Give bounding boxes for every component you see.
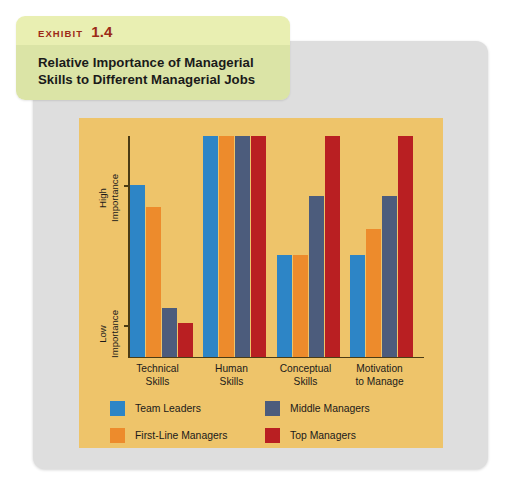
y-axis-tick-low	[124, 325, 128, 327]
bar	[178, 323, 193, 356]
legend-swatch-icon	[110, 401, 125, 416]
legend-label: Top Managers	[290, 430, 356, 441]
exhibit-title-band: Relative Importance of Managerial Skills…	[16, 45, 290, 100]
legend-item: Top Managers	[265, 428, 420, 443]
bar	[293, 255, 308, 356]
y-axis-label-high: High Importance	[97, 174, 120, 222]
x-axis-category-label: ConceptualSkills	[278, 362, 352, 388]
y-axis-label-high-line2: Importance	[109, 174, 120, 222]
bar	[162, 308, 177, 357]
bar-groups	[130, 136, 425, 357]
bar	[277, 255, 292, 356]
exhibit-header-badge: EXHIBIT 1.4 Relative Importance of Manag…	[16, 16, 290, 100]
bar-group	[130, 136, 204, 357]
x-axis-category-label: TechnicalSkills	[130, 362, 204, 388]
category-label-line2: to Manage	[355, 376, 403, 387]
category-label-line1: Conceptual	[280, 363, 332, 374]
legend-swatch-icon	[265, 428, 280, 443]
exhibit-title-line-1: Relative Importance of Managerial	[38, 54, 274, 71]
exhibit-title-line-2: Skills to Different Managerial Jobs	[38, 71, 274, 88]
bar	[366, 229, 381, 357]
legend-swatch-icon	[265, 401, 280, 416]
bar	[309, 196, 324, 357]
exhibit-kicker-band: EXHIBIT 1.4	[16, 16, 290, 45]
x-axis-line	[128, 357, 424, 359]
legend-label: Middle Managers	[290, 403, 370, 414]
bar	[350, 255, 365, 356]
y-axis-label-low-line1: Low	[97, 325, 108, 343]
category-label-line1: Motivation	[356, 363, 402, 374]
category-label-line1: Human	[215, 363, 248, 374]
legend-label: Team Leaders	[135, 403, 201, 414]
exhibit-number: 1.4	[91, 23, 112, 40]
bar	[203, 136, 218, 357]
bar-group	[277, 136, 351, 357]
y-axis-label-low-line2: Importance	[109, 310, 120, 358]
x-axis-category-label: HumanSkills	[204, 362, 278, 388]
bar	[251, 136, 266, 357]
exhibit-label: EXHIBIT	[38, 28, 83, 39]
legend-swatch-icon	[110, 428, 125, 443]
legend-label: First-Line Managers	[135, 430, 227, 441]
plot-area	[128, 136, 424, 358]
chart-panel: High Importance Low Importance Technical…	[79, 118, 443, 448]
bar	[382, 196, 397, 357]
chart-legend: Team LeadersMiddle ManagersFirst-Line Ma…	[110, 401, 420, 443]
bar	[325, 136, 340, 357]
bar	[146, 207, 161, 357]
y-axis-label-low: Low Importance	[97, 310, 120, 358]
y-axis-tick-high	[124, 185, 128, 187]
category-label-line2: Skills	[220, 376, 244, 387]
bar	[130, 185, 145, 357]
x-axis-category-labels: TechnicalSkillsHumanSkillsConceptualSkil…	[130, 362, 426, 388]
category-label-line2: Skills	[294, 376, 318, 387]
y-axis-label-high-line1: High	[97, 188, 108, 208]
legend-item: Team Leaders	[110, 401, 265, 416]
legend-item: First-Line Managers	[110, 428, 265, 443]
bar-group	[203, 136, 277, 357]
legend-item: Middle Managers	[265, 401, 420, 416]
bar-group	[350, 136, 424, 357]
category-label-line1: Technical	[136, 363, 178, 374]
x-axis-category-label: Motivationto Manage	[352, 362, 426, 388]
bar	[235, 136, 250, 357]
bar	[219, 136, 234, 357]
bar	[398, 136, 413, 357]
category-label-line2: Skills	[146, 376, 170, 387]
